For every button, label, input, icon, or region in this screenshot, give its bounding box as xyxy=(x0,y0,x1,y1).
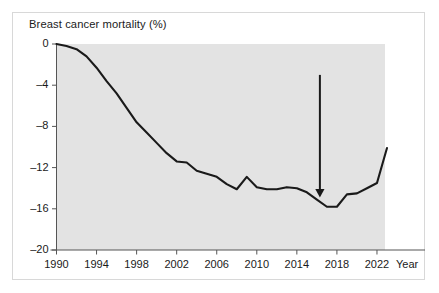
x-tick-label: 2010 xyxy=(235,258,279,270)
y-tick-label: –20 xyxy=(15,243,49,255)
x-tick-label: 1994 xyxy=(75,258,119,270)
y-tick-label: 0 xyxy=(15,37,49,49)
x-tick-label: 2018 xyxy=(315,258,359,270)
x-tick-label: 1998 xyxy=(115,258,159,270)
x-tick-label: 2022 xyxy=(355,258,399,270)
figure-container: Breast cancer mortality (%) 0–4–8–12–16–… xyxy=(0,0,439,293)
x-axis-title: Year xyxy=(396,258,418,270)
x-tick-label: 2002 xyxy=(155,258,199,270)
chart-plot xyxy=(0,0,439,293)
y-tick-label: –16 xyxy=(15,202,49,214)
x-tick-label: 1990 xyxy=(35,258,79,270)
y-tick-label: –12 xyxy=(15,161,49,173)
shaded-band xyxy=(57,44,385,250)
x-tick-label: 2014 xyxy=(275,258,319,270)
y-tick-label: –4 xyxy=(15,78,49,90)
y-tick-label: –8 xyxy=(15,119,49,131)
x-tick-label: 2006 xyxy=(195,258,239,270)
